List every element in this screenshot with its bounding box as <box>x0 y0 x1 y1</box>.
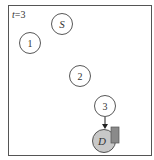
time-label: t=3 <box>12 9 25 20</box>
svg-text:S: S <box>59 18 65 30</box>
svg-text:1: 1 <box>28 38 33 49</box>
svg-text:3: 3 <box>103 101 108 112</box>
node-s: S <box>52 14 73 35</box>
diagram: t=3 S 1 2 3 D <box>0 0 154 160</box>
node-2: 2 <box>70 66 91 87</box>
node-1: 1 <box>20 33 41 54</box>
svg-text:2: 2 <box>78 71 83 82</box>
svg-text:D: D <box>97 135 106 147</box>
node-3: 3 <box>95 96 116 117</box>
block <box>111 127 119 143</box>
